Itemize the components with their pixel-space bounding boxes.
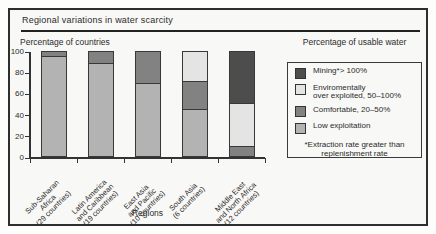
- bar-latin-america-and-caribbean-19-countries: [88, 51, 114, 157]
- segment-comfortable-20-50: [183, 81, 207, 110]
- y-tick-label-40: 40: [4, 112, 24, 120]
- footnote-line: replenishment rate: [295, 149, 414, 158]
- segment-low-exploitation: [183, 109, 207, 156]
- mining-swatch-icon: [295, 68, 306, 79]
- segment-low-exploitation: [89, 63, 113, 156]
- segment-comfortable-20-50: [136, 52, 160, 83]
- scanned-figure-page: Regional variations in water scarcity Pe…: [0, 0, 436, 234]
- segment-low-exploitation: [136, 83, 160, 156]
- y-axis-title: Percentage of countries: [20, 37, 110, 47]
- bar-east-asia-and-pacific-10-countries: [135, 51, 161, 157]
- y-tick-100: [25, 52, 29, 53]
- segment-comfortable-20-50: [89, 52, 113, 63]
- comfortable-swatch-icon: [295, 106, 306, 117]
- segment-enviromentally-over-exploited-50-100: [230, 103, 254, 146]
- segment-comfortable-20-50: [230, 146, 254, 156]
- title-rule: [21, 30, 420, 32]
- figure-title: Regional variations in water scarcity: [22, 15, 173, 25]
- y-tick-40: [25, 115, 29, 116]
- x-tick-2: [124, 158, 125, 163]
- x-axis-title: Regions: [30, 208, 265, 218]
- y-tick-20: [25, 136, 29, 137]
- segment-enviromentally-over-exploited-50-100: [183, 52, 207, 81]
- y-tick-60: [25, 94, 29, 95]
- legend-item-label: Enviromentallyover exploited, 50–100%: [313, 84, 401, 101]
- y-tick-label-80: 80: [4, 69, 24, 77]
- x-axis-line: [29, 157, 265, 159]
- low-exploitation-swatch-icon: [295, 123, 306, 134]
- y-tick-label-100: 100: [4, 48, 24, 56]
- environmentally-over-exploited-swatch-icon: [295, 84, 306, 95]
- legend-label-line: Comfortable, 20–50%: [313, 106, 390, 115]
- legend-item-label: Mining*> 100%: [313, 67, 367, 76]
- bar-middle-east-and-north-africa-12-countries: [229, 51, 255, 157]
- x-tick-3: [171, 158, 172, 163]
- y-tick-80: [25, 73, 29, 74]
- legend-label-line: Mining*> 100%: [313, 67, 367, 76]
- legend-box: Mining*> 100%Enviromentallyover exploite…: [287, 62, 422, 158]
- y-axis-line: [29, 52, 31, 159]
- legend-item-label: Low exploitation: [313, 122, 370, 131]
- x-tick-1: [77, 158, 78, 163]
- bar-south-asia-6-countries: [182, 51, 208, 157]
- legend-title: Percentage of usable water: [287, 37, 422, 47]
- segment-low-exploitation: [42, 56, 66, 156]
- figure-frame: Regional variations in water scarcity Pe…: [8, 8, 428, 226]
- legend-item-mining: Mining*> 100%: [295, 67, 421, 79]
- legend-item-comfortable: Comfortable, 20–50%: [295, 106, 421, 118]
- y-tick-0: [25, 158, 29, 159]
- y-tick-label-20: 20: [4, 133, 24, 141]
- legend-footnote: *Extraction rate greater thanreplenishme…: [295, 140, 421, 158]
- x-tick-0: [30, 158, 31, 163]
- x-tick-4: [218, 158, 219, 163]
- legend-item-label: Comfortable, 20–50%: [313, 106, 390, 115]
- legend-label-line: Low exploitation: [313, 122, 370, 131]
- legend-item-low-exploitation: Low exploitation: [295, 122, 421, 134]
- y-tick-label-0: 0: [4, 154, 24, 162]
- x-tick-5: [265, 158, 266, 163]
- legend-item-environmentally-over-exploited: Enviromentallyover exploited, 50–100%: [295, 84, 421, 101]
- legend-items: Mining*> 100%Enviromentallyover exploite…: [295, 67, 421, 134]
- footnote-line: *Extraction rate greater than: [295, 140, 414, 149]
- bar-sub-saharan-africa-29-countries: [41, 51, 67, 157]
- segment-mining-100: [230, 52, 254, 103]
- y-tick-label-60: 60: [4, 90, 24, 98]
- legend-label-line: over exploited, 50–100%: [313, 92, 401, 101]
- plot-area: 020406080100Sub-SaharanAfrica(29 countri…: [30, 52, 265, 158]
